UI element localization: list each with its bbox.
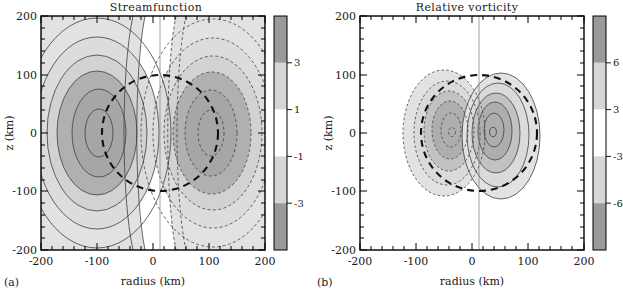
panel-a-tag: (a): [4, 276, 19, 289]
svg-text:-6: -6: [613, 198, 623, 209]
svg-text:0: 0: [30, 127, 37, 140]
svg-text:-1: -1: [294, 151, 304, 162]
y-axis-label-a: z (km): [3, 116, 16, 151]
svg-text:-100: -100: [331, 185, 356, 198]
figure-root: Streamfunction: [0, 0, 623, 290]
svg-text:-200: -200: [12, 244, 37, 257]
svg-text:-200: -200: [331, 244, 356, 257]
svg-text:0: 0: [150, 255, 157, 268]
x-tick-labels-b: -200 -100 0 100 200: [348, 255, 595, 268]
svg-text:200: 200: [255, 255, 276, 268]
svg-text:200: 200: [335, 10, 356, 23]
x-axis-label-b: radius (km): [440, 275, 504, 288]
svg-text:100: 100: [335, 69, 356, 82]
colorbar-b: 6 3 -3 -6: [593, 16, 623, 250]
svg-text:100: 100: [199, 255, 220, 268]
svg-text:3: 3: [294, 57, 300, 68]
y-axis-label-b: z (km): [322, 116, 335, 151]
panel-relative-vorticity: Relative vorticity: [311, 0, 623, 290]
x-axis-label-a: radius (km): [121, 275, 185, 288]
svg-text:-100: -100: [12, 185, 37, 198]
panel-b-tag: (b): [317, 276, 333, 289]
panel-streamfunction: Streamfunction: [0, 0, 312, 290]
colorbar-b-labels: 6 3 -3 -6: [613, 57, 623, 209]
svg-text:-3: -3: [613, 151, 623, 162]
svg-text:1: 1: [294, 104, 300, 115]
colorbar-a-labels: 3 1 -1 -3: [294, 57, 304, 209]
svg-text:0: 0: [469, 255, 476, 268]
svg-text:200: 200: [574, 255, 595, 268]
svg-text:3: 3: [613, 104, 619, 115]
svg-text:200: 200: [16, 10, 37, 23]
svg-text:0: 0: [349, 127, 356, 140]
svg-text:-3: -3: [294, 198, 304, 209]
svg-text:-100: -100: [404, 255, 429, 268]
svg-text:-100: -100: [85, 255, 110, 268]
panel-b-plot: -200 -100 0 100 200 200 100 0 -100 -200 …: [311, 0, 623, 290]
panel-a-plot: -200 -100 0 100 200 200 100 0 -100 -200 …: [0, 0, 312, 290]
svg-text:6: 6: [613, 57, 619, 68]
svg-text:100: 100: [16, 69, 37, 82]
x-tick-labels-a: -200 -100 0 100 200: [29, 255, 276, 268]
colorbar-a: 3 1 -1 -3: [274, 16, 304, 250]
svg-text:100: 100: [518, 255, 539, 268]
